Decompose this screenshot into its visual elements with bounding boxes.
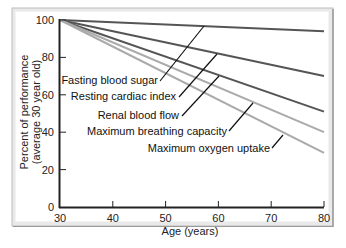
- x-axis-title: Age (years): [162, 225, 219, 237]
- y-tick-label: 80: [42, 51, 54, 63]
- x-tick-label: 60: [212, 212, 224, 224]
- x-tick-label: 80: [318, 212, 330, 224]
- x-tick-label: 40: [107, 212, 119, 224]
- y-tick-label: 60: [42, 89, 54, 101]
- annotation-label: Maximum oxygen uptake: [148, 142, 270, 154]
- chart-figure: 020406080100304050607080 Age (years) Per…: [0, 0, 346, 248]
- y-axis-title-line1: Percent of performance: [18, 55, 30, 170]
- y-tick-label: 100: [36, 14, 54, 26]
- y-axis-title-line2: (average 30 year old): [30, 60, 42, 165]
- y-axis-title: Percent of performance (average 30 year …: [18, 55, 42, 170]
- y-tick-label: 20: [42, 164, 54, 176]
- y-tick-label: 40: [42, 126, 54, 138]
- x-tick-label: 30: [54, 212, 66, 224]
- x-tick-label: 50: [159, 212, 171, 224]
- annotation-label: Resting cardiac index: [71, 90, 177, 102]
- annotation-label: Renal blood flow: [98, 109, 179, 121]
- annotation-label: Maximum breathing capacity: [87, 125, 228, 137]
- annotation-label: Fasting blood sugar: [61, 74, 158, 86]
- x-tick-label: 70: [265, 212, 277, 224]
